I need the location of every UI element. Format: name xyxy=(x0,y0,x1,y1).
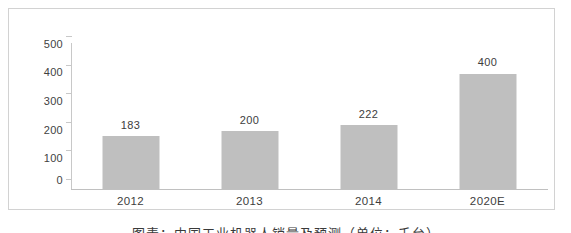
plot-area: 183 200 222 400 xyxy=(71,45,547,189)
y-axis-label-200: 200 xyxy=(23,125,63,136)
bar-value-2013: 200 xyxy=(240,115,259,126)
bar-value-2020e: 400 xyxy=(478,57,497,68)
x-axis-label-2013: 2013 xyxy=(190,195,309,208)
bar-2020e[interactable] xyxy=(459,74,516,189)
y-tick-500 xyxy=(66,36,72,37)
y-axis-label-300: 300 xyxy=(23,96,63,107)
y-axis-label-100: 100 xyxy=(23,153,63,164)
chart-frame: 500 400 300 200 100 0 183 200 xyxy=(8,8,555,210)
bar-group-2012: 183 xyxy=(71,45,190,189)
y-axis-label-400: 400 xyxy=(23,67,63,78)
bar-2014[interactable] xyxy=(340,125,397,189)
y-axis-labels: 500 400 300 200 100 0 xyxy=(19,9,63,209)
y-axis-label-500: 500 xyxy=(23,39,63,50)
bar-value-2014: 222 xyxy=(359,109,378,120)
chart-caption-text: 图表：中国工业机器人销量及预测（单位：千台） xyxy=(132,226,440,233)
x-axis-line xyxy=(71,189,548,190)
bar-2012[interactable] xyxy=(102,136,159,189)
bar-group-2014: 222 xyxy=(309,45,428,189)
x-axis-label-2014: 2014 xyxy=(309,195,428,208)
bar-group-2020e: 400 xyxy=(428,45,547,189)
chart-caption: 图表：中国工业机器人销量及预测（单位：千台） xyxy=(0,224,571,233)
bar-value-2012: 183 xyxy=(121,120,140,131)
x-axis-label-2012: 2012 xyxy=(71,195,190,208)
x-axis-label-2020e: 2020E xyxy=(428,195,547,208)
y-axis-label-0: 0 xyxy=(23,175,63,186)
bar-group-2013: 200 xyxy=(190,45,309,189)
x-axis-labels: 2012 2013 2014 2020E xyxy=(71,195,547,213)
bar-2013[interactable] xyxy=(221,131,278,189)
chart-figure: 500 400 300 200 100 0 183 200 xyxy=(0,0,571,233)
